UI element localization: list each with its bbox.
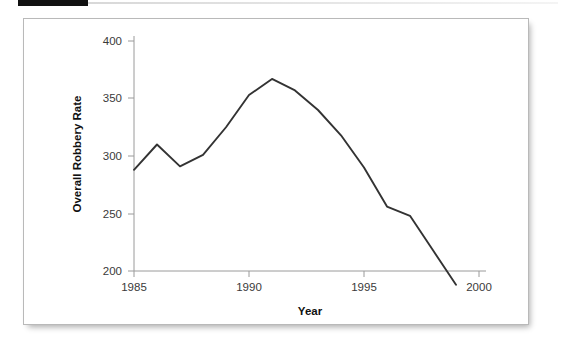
line-chart: 400 350 300 250 200 1985 1990 1995 [24, 19, 528, 324]
y-axis-ticks: 400 350 300 250 200 [103, 35, 134, 277]
x-axis-title: Year [298, 305, 323, 317]
header-divider-rule [88, 2, 558, 4]
y-axis-title: Overall Robbery Rate [71, 96, 83, 213]
x-tick-label-1995: 1995 [351, 281, 377, 293]
y-tick-label-300: 300 [103, 150, 122, 162]
x-tick-label-2000: 2000 [466, 281, 492, 293]
y-tick-label-200: 200 [103, 265, 122, 277]
figure-container: 400 350 300 250 200 1985 1990 1995 [23, 18, 529, 325]
y-tick-label-250: 250 [103, 208, 122, 220]
y-tick-label-350: 350 [103, 92, 122, 104]
screenshot-root: 400 350 300 250 200 1985 1990 1995 [0, 0, 565, 351]
page-marker-bar [18, 0, 88, 6]
x-axis-ticks: 1985 1990 1995 2000 [121, 271, 492, 293]
robbery-rate-line [134, 79, 456, 285]
x-tick-label-1985: 1985 [121, 281, 147, 293]
x-tick-label-1990: 1990 [236, 281, 262, 293]
y-tick-label-400: 400 [103, 35, 122, 47]
